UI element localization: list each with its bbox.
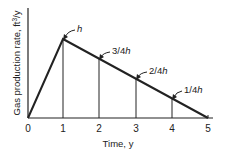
x-tick-5: 5 [205, 123, 211, 134]
annotation-14h-prefix: 1/4 [184, 84, 197, 95]
annotation-14h: 1/4h [184, 84, 203, 95]
annotation-24h: 2/4h [149, 65, 168, 76]
arrowhead-h [63, 34, 68, 40]
y-axis-label: Gas production rate, ft3/y [11, 10, 22, 115]
y-axis-label-tail: /y [11, 10, 22, 18]
annotation-24h-var: h [162, 65, 167, 76]
annotation-14h-var: h [197, 84, 202, 95]
x-tick-1: 1 [60, 123, 66, 134]
annotation-24h-prefix: 2/4 [149, 65, 162, 76]
chart: h 3/4h 2/4h 1/4h 0 1 2 3 4 5 Time, y Gas… [0, 0, 225, 156]
annotation-34h-var: h [125, 45, 130, 56]
annotation-34h-prefix: 3/4 [112, 45, 125, 56]
x-tick-0: 0 [25, 123, 31, 134]
x-tick-4: 4 [169, 123, 175, 134]
y-axis-label-main: Gas production rate, ft [11, 21, 22, 115]
x-tick-2: 2 [96, 123, 102, 134]
x-tick-3: 3 [133, 123, 139, 134]
annotation-34h: 3/4h [112, 45, 131, 56]
x-axis-label: Time, y [103, 138, 134, 149]
annotation-h: h [77, 23, 82, 34]
